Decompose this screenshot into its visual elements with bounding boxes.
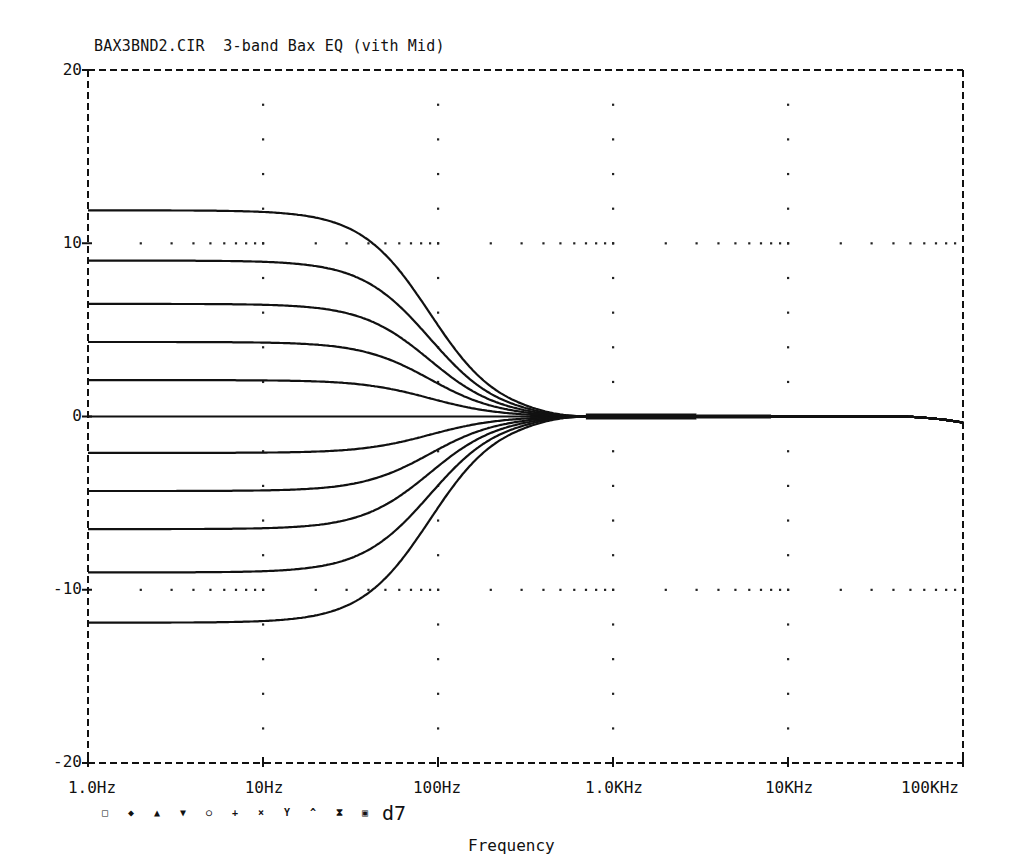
y-tick-0: 0: [22, 406, 82, 425]
x-tick-1khz: 1.0KHz: [585, 778, 643, 797]
x-tick-10hz: 10Hz: [245, 778, 284, 797]
legend-hourglass-icon: ⧗: [326, 806, 352, 820]
eq-curves: [88, 210, 963, 622]
legend-caret-icon: ^: [300, 806, 326, 820]
legend-triangle-down-icon: ▼: [170, 806, 196, 820]
legend-circle-icon: ○: [196, 806, 222, 820]
plot-area: [0, 0, 1010, 866]
legend-y-icon: Y: [274, 806, 300, 820]
eq-curve: [88, 210, 963, 422]
eq-curve: [88, 417, 963, 530]
legend-diamond-icon: ◆: [118, 806, 144, 820]
legend-x-icon: ×: [248, 806, 274, 820]
chart-title: BAX3BND2.CIR 3-band Bax EQ (vith Mid): [94, 37, 445, 55]
x-tick-10khz: 10KHz: [765, 778, 813, 797]
eq-curve: [88, 417, 963, 623]
y-tick-neg10: -10: [22, 579, 82, 598]
legend-plus-icon: +: [222, 806, 248, 820]
legend-square-icon: □: [92, 806, 118, 820]
y-tick-neg20: -20: [22, 752, 82, 771]
legend-boxed-square-icon: ▣: [352, 806, 378, 820]
legend-label: d7: [382, 803, 406, 823]
x-tick-1hz: 1.0Hz: [68, 778, 116, 797]
x-axis-label: Frequency: [468, 836, 555, 855]
x-tick-100khz: 100KHz: [901, 778, 959, 797]
legend: □ ◆ ▲ ▼ ○ + × Y ^ ⧗ ▣ d7: [92, 803, 406, 823]
eq-curve: [88, 417, 963, 573]
x-tick-100hz: 100Hz: [413, 778, 461, 797]
legend-triangle-up-icon: ▲: [144, 806, 170, 820]
y-tick-20: 20: [22, 60, 82, 79]
y-tick-10: 10: [22, 233, 82, 252]
